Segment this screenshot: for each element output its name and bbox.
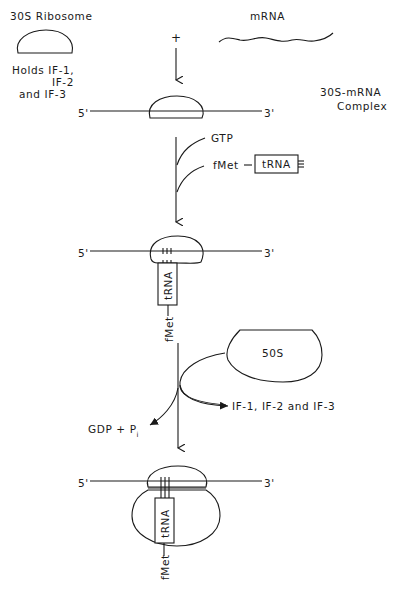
step2-30s-subunit (150, 236, 203, 263)
holds-if2-label: IF-2 (52, 76, 74, 88)
holds-if3-label: and IF-3 (19, 88, 67, 100)
step2-five-prime: 5' (78, 247, 89, 259)
fmet-trna-input-curve (177, 166, 204, 192)
step1-30s-subunit (149, 96, 203, 118)
step3-fmet-label: fMet (159, 554, 171, 580)
gtp-label: GTP (211, 132, 233, 144)
50s-join-curve (180, 353, 226, 405)
gdp-text: GDP + P (88, 423, 137, 435)
large-subunit-50s-label: 50S (262, 347, 284, 359)
mrna-label: mRNA (250, 10, 285, 22)
step2-fmet-label: fMet (163, 316, 175, 342)
step1-three-prime: 3' (264, 107, 275, 119)
ribosome-30s-label: 30S Ribosome (10, 10, 92, 22)
step3-trna-label: tRNA (159, 509, 171, 538)
gtp-input-curve (177, 138, 205, 165)
step3-three-prime: 3' (264, 477, 275, 489)
gdp-release-arrow (150, 388, 178, 425)
gdp-pi-label: GDP + Pi (88, 423, 139, 439)
step3-five-prime: 5' (78, 477, 89, 489)
complex-label-line2: Complex (337, 100, 387, 112)
complex-label-line1: 30S-mRNA (320, 86, 381, 98)
holds-if1-label: Holds IF-1, (12, 64, 74, 76)
pi-subscript: i (137, 431, 140, 439)
step1-five-prime: 5' (78, 107, 89, 119)
fmet-input-label: fMet (213, 159, 239, 171)
released-factors-label: IF-1, IF-2 and IF-3 (232, 400, 335, 412)
anticodon-ticks-input (298, 161, 304, 167)
step2-three-prime: 3' (264, 247, 275, 259)
step2-trna-label: tRNA (162, 271, 174, 300)
ribosome-30s-shape (17, 30, 72, 53)
step3-50s-subunit (132, 490, 220, 546)
step3-30s-subunit (147, 466, 206, 487)
plus-sign: + (171, 31, 182, 45)
trna-input-label: tRNA (262, 158, 291, 170)
translation-initiation-diagram: 30S Ribosome Holds IF-1, IF-2 and IF-3 m… (0, 0, 393, 595)
mrna-strand (219, 33, 333, 42)
